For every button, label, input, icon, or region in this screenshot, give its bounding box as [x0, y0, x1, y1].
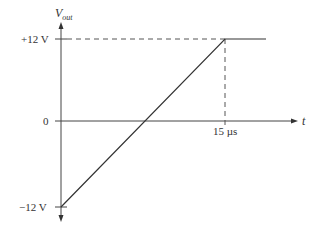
y-axis-arrow-down-icon: [59, 215, 64, 222]
x-tick-label-15us: 15 µs: [213, 126, 237, 137]
x-axis-label: t: [302, 115, 305, 127]
y-axis-label: Vout: [55, 7, 73, 22]
y-axis-arrow-up-icon: [59, 22, 64, 29]
y-tick-label-minus12: −12 V: [19, 202, 47, 213]
vout-ramp-figure: Vout +12 V 0 −12 V 15 µs t: [0, 0, 315, 233]
y-tick-label-zero: 0: [43, 116, 49, 127]
vout-waveform: [61, 39, 266, 207]
y-axis-label-sub: out: [62, 13, 72, 22]
y-tick-label-plus12: +12 V: [21, 34, 49, 45]
x-axis-arrow-icon: [291, 119, 298, 124]
